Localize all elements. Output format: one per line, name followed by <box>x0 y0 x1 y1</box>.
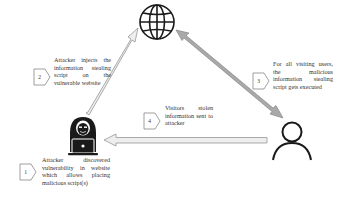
step-badge-1: 1 <box>20 164 36 180</box>
step-number: 4 <box>144 113 155 129</box>
arrow-user-to-attacker <box>104 134 267 146</box>
step-number: 3 <box>253 73 264 89</box>
step-2-description: Attacker injects the information stealin… <box>54 56 111 86</box>
step-4-description: Visitors stolen information sent to atta… <box>165 104 213 127</box>
step-3-description: For all visiting users, the malicious in… <box>273 60 333 90</box>
step-number: 2 <box>34 69 45 85</box>
step-number: 1 <box>20 164 31 180</box>
step-1-description: Attacker discovered vulnerability in web… <box>42 156 110 186</box>
hooded-hacker-icon <box>68 117 98 155</box>
step-badge-4: 4 <box>144 113 160 129</box>
step-badge-3: 3 <box>253 73 269 89</box>
globe-icon <box>140 5 174 39</box>
xss-diagram: 1 Attacker discovered vulnerability in w… <box>0 0 345 206</box>
step-badge-2: 2 <box>34 69 50 85</box>
user-icon <box>273 123 311 161</box>
